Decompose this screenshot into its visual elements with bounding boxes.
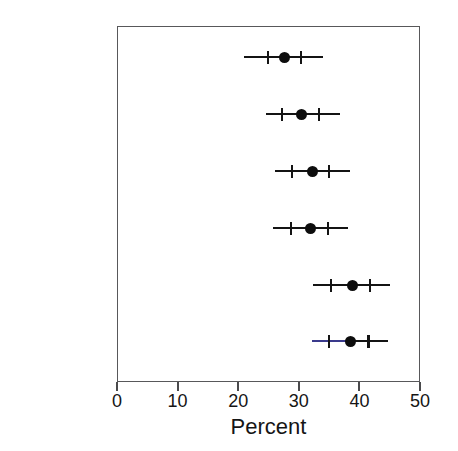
x-tick-label-30: 30 [289, 391, 309, 412]
chart-container: Trees Molds Grasses Weeds Dust Mites Epi… [0, 0, 458, 451]
x-tick-label-10: 10 [168, 391, 188, 412]
x-tick-20 [237, 382, 239, 391]
x-tick-label-20: 20 [228, 391, 248, 412]
x-tick-label-50: 50 [410, 391, 430, 412]
x-tick-50 [419, 382, 421, 391]
x-axis: 01020304050 Percent [0, 0, 458, 451]
x-tick-0 [116, 382, 118, 391]
x-axis-title: Percent [117, 414, 420, 440]
x-tick-40 [358, 382, 360, 391]
x-tick-10 [177, 382, 179, 391]
x-tick-label-0: 0 [112, 391, 122, 412]
x-tick-label-40: 40 [349, 391, 369, 412]
x-tick-30 [298, 382, 300, 391]
